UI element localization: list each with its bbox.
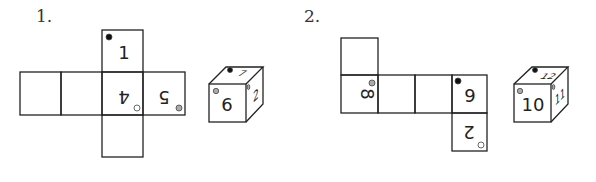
- cube2-face-front: 10: [522, 94, 545, 115]
- net1-face-top: 1: [118, 42, 129, 63]
- gray-dot: [247, 84, 250, 89]
- gray-dot: [213, 88, 218, 93]
- cube1-face-top: 7: [235, 69, 249, 78]
- black-dot: [533, 68, 538, 73]
- net1-face-center: 4: [118, 87, 129, 108]
- gray-dot: [517, 88, 522, 93]
- cube2-face-right: 11: [555, 84, 565, 109]
- gray-dot: [552, 84, 555, 89]
- dice-nets-diagram: 1 4 5 6 7 2 8 9 2 10 12 11: [0, 0, 596, 182]
- gray-dot: [176, 105, 182, 111]
- black-dot: [455, 78, 461, 84]
- black-dot: [228, 68, 233, 73]
- cube1-face-right: 2: [253, 85, 259, 106]
- white-dot: [478, 142, 484, 148]
- net2-face-right: 9: [464, 85, 475, 106]
- cube1-face-front: 6: [221, 94, 232, 115]
- gray-dot: [369, 80, 375, 86]
- net2-face-left: 8: [357, 88, 378, 99]
- black-dot: [106, 34, 112, 40]
- net1-face-right: 5: [158, 87, 169, 108]
- net2-face-bottom: 2: [463, 122, 474, 143]
- white-dot: [134, 105, 140, 111]
